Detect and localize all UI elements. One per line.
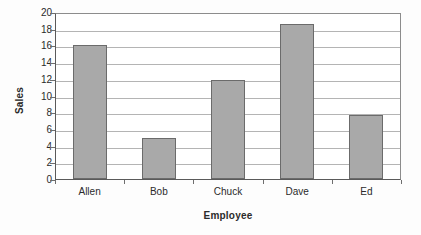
bar-allen[interactable]	[73, 45, 107, 179]
y-axis-tick-label: 2	[30, 158, 52, 168]
bar-slot	[262, 14, 331, 179]
x-axis-tick-mark	[332, 180, 333, 184]
bar-slot	[125, 14, 194, 179]
y-axis-tick-label: 0	[30, 175, 52, 185]
y-axis-tick-mark	[50, 30, 55, 31]
y-axis-tick-mark	[50, 163, 55, 164]
x-axis-tick-mark	[55, 180, 56, 184]
bar-slot	[56, 14, 125, 179]
y-axis-tick-mark	[50, 130, 55, 131]
x-axis-tick-marks	[55, 180, 401, 185]
y-axis-tick-labels: 20181614121086420	[30, 13, 52, 180]
plot-area	[55, 13, 401, 180]
x-axis-title: Employee	[55, 210, 401, 221]
y-axis-tick-label: 8	[30, 108, 52, 118]
x-axis-tick-mark	[401, 180, 402, 184]
y-axis-tick-mark	[50, 180, 55, 181]
y-axis-tick-label: 16	[30, 41, 52, 51]
x-axis-tick-labels: AllenBobChuckDaveEd	[55, 186, 401, 198]
y-axis-tick-mark	[50, 97, 55, 98]
x-axis-tick-mark	[124, 180, 125, 184]
y-axis-tick-label: 12	[30, 75, 52, 85]
bar-dave[interactable]	[280, 24, 314, 179]
y-axis-tick-mark	[50, 113, 55, 114]
y-axis-tick-mark	[50, 13, 55, 14]
y-axis-tick-label: 20	[30, 8, 52, 18]
y-axis-tick-label: 18	[30, 25, 52, 35]
y-axis-tick-mark	[50, 46, 55, 47]
bar-bob[interactable]	[142, 138, 176, 179]
bars-group	[56, 14, 400, 179]
bar-slot	[331, 14, 400, 179]
x-axis-tick-mark	[193, 180, 194, 184]
x-axis-tick-label: Dave	[263, 186, 332, 198]
y-axis-tick-mark	[50, 63, 55, 64]
x-axis-tick-label: Allen	[55, 186, 124, 198]
y-axis-tick-label: 14	[30, 58, 52, 68]
y-axis-tick-mark	[50, 80, 55, 81]
y-axis-tick-label: 6	[30, 125, 52, 135]
bar-slot	[194, 14, 263, 179]
x-axis-tick-label: Bob	[124, 186, 193, 198]
y-axis-title-label: Sales	[15, 86, 26, 113]
x-axis-tick-label: Ed	[332, 186, 401, 198]
y-axis-tick-label: 10	[30, 92, 52, 102]
y-axis-title: Sales	[13, 75, 27, 125]
x-axis-tick-mark	[263, 180, 264, 184]
y-axis-tick-label: 4	[30, 142, 52, 152]
bar-chart: Sales 20181614121086420 AllenBobChuckDav…	[0, 0, 421, 235]
bar-chuck[interactable]	[211, 80, 245, 179]
y-axis-tick-mark	[50, 147, 55, 148]
bar-ed[interactable]	[349, 115, 383, 179]
x-axis-tick-label: Chuck	[193, 186, 262, 198]
